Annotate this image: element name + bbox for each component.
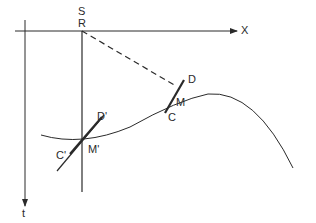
geometry-diagram: S R X t D M C D' M' C' — [0, 0, 316, 223]
label-m-prime: M' — [88, 144, 99, 155]
label-d-prime: D' — [97, 111, 107, 122]
dashed-line-rm — [82, 31, 176, 86]
label-m: M — [176, 97, 185, 108]
label-d: D — [188, 74, 196, 85]
label-r: R — [78, 18, 86, 29]
label-x-axis: X — [241, 25, 248, 36]
label-t-axis: t — [22, 208, 25, 219]
diagram-canvas — [0, 0, 316, 223]
label-c: C — [168, 112, 176, 123]
curve — [41, 94, 293, 168]
label-c-prime: C' — [56, 150, 66, 161]
label-s: S — [78, 6, 85, 17]
